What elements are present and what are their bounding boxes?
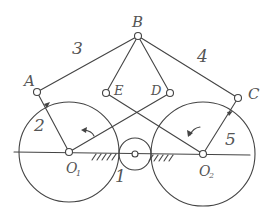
joint-O2 [200,151,207,158]
label-link-2: 2 [33,115,45,135]
label-A: A [22,72,35,90]
label-link-3: 3 [72,38,83,58]
label-D: D [150,83,162,98]
joint-B [135,33,142,40]
joint-C [235,95,242,102]
joint-D [167,90,174,97]
label-C: C [248,85,260,103]
mechanism-svg: B A E D C O 1 O 2 3 4 2 5 1 [0,0,272,222]
label-B: B [131,13,143,31]
joint-center [132,151,138,157]
label-E: E [113,83,124,98]
rotation-arrowhead-left [81,127,87,133]
mechanism-diagram: B A E D C O 1 O 2 3 4 2 5 1 [0,0,272,222]
label-link-4: 4 [196,46,208,66]
label-link-1: 1 [115,166,126,186]
crank-right-mark [227,111,233,116]
joint-O1 [66,149,73,156]
joint-E [103,90,110,97]
label-O2-sub: 2 [208,171,214,180]
label-link-5: 5 [225,129,236,149]
label-O1-sub: 1 [76,169,81,178]
